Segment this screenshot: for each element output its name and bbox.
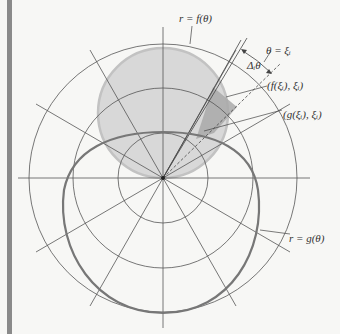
label-point-f: (f(ξᵢ), ξᵢ)	[267, 80, 303, 91]
arrowhead-right	[266, 69, 272, 74]
label-point-g: (g(ξᵢ), ξᵢ)	[283, 109, 322, 120]
label-theta-xi: θ = ξᵢ	[266, 45, 291, 56]
origin-point	[161, 176, 165, 180]
label-f-curve: r = f(θ)	[179, 13, 212, 24]
label-g-curve: r = g(θ)	[289, 233, 324, 244]
label-delta-theta: Δᵢθ	[247, 60, 261, 71]
